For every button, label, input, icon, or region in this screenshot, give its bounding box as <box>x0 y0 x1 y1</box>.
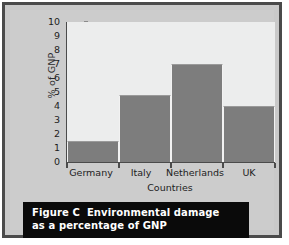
y-tick-label: 1 <box>44 143 60 153</box>
bar-germany <box>67 141 119 162</box>
bar-uk <box>223 106 275 162</box>
y-tick-label: 2 <box>44 129 60 139</box>
y-axis-ticks: 012345678910 <box>44 22 60 162</box>
figure-caption: Figure CEnvironmental damage as a percen… <box>23 202 249 238</box>
y-tick-label: 4 <box>44 101 60 111</box>
caption-line-1: Figure CEnvironmental damage <box>32 206 241 219</box>
y-tick-label: 8 <box>44 45 60 55</box>
y-tick-label: 9 <box>44 31 60 41</box>
x-tick-mark <box>274 163 276 168</box>
bar-series <box>67 22 275 162</box>
plot-area <box>66 22 275 163</box>
x-tick-label: Germany <box>66 167 116 178</box>
bar-cell <box>119 22 171 162</box>
figure-root: % of GNP 012345678910 GermanyItalyNether… <box>0 0 289 245</box>
y-tick-label: 3 <box>44 115 60 125</box>
y-tick-label: 10 <box>44 17 60 27</box>
y-tick-label: 0 <box>44 157 60 167</box>
y-tick-label: 7 <box>44 59 60 69</box>
bar-cell <box>67 22 119 162</box>
x-tick-label: Netherlands <box>166 167 224 178</box>
bar-chart: % of GNP 012345678910 GermanyItalyNether… <box>22 18 277 196</box>
x-tick-label: UK <box>224 167 274 178</box>
y-tick-label: 6 <box>44 73 60 83</box>
bar-cell <box>171 22 223 162</box>
caption-text-1: Environmental damage <box>87 207 220 218</box>
bar-italy <box>119 95 171 162</box>
y-tick-label: 5 <box>44 87 60 97</box>
caption-line-2: as a percentage of GNP <box>32 219 241 232</box>
caption-label: Figure C <box>32 207 80 218</box>
figure-frame: % of GNP 012345678910 GermanyItalyNether… <box>2 2 282 238</box>
bar-netherlands <box>171 64 223 162</box>
bar-cell <box>223 22 275 162</box>
figure-panel: % of GNP 012345678910 GermanyItalyNether… <box>10 10 274 230</box>
x-tick-label: Italy <box>116 167 166 178</box>
x-axis-title: Countries <box>66 182 274 193</box>
x-axis-labels: GermanyItalyNetherlandsUK <box>66 167 274 178</box>
